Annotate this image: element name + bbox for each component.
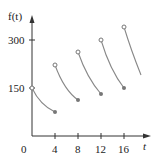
x-tick-12: 12 xyxy=(95,143,106,155)
y-tick-300: 300 xyxy=(8,34,25,46)
x-tick-4: 4 xyxy=(52,143,58,155)
x-axis-arrow-icon xyxy=(143,134,151,139)
y-tick-150: 150 xyxy=(8,82,25,94)
origin-label: 0 xyxy=(21,143,27,155)
filled-points xyxy=(53,86,126,114)
x-tick-16: 16 xyxy=(118,143,130,155)
curves xyxy=(32,27,141,112)
y-axis-label: f(t) xyxy=(8,10,22,23)
open-points xyxy=(30,25,126,90)
x-tick-8: 8 xyxy=(75,143,81,155)
x-axis-label: t xyxy=(143,140,147,152)
y-axis-arrow-icon xyxy=(30,15,35,23)
chart: f(t) 300 150 0 4 8 12 16 t xyxy=(0,0,160,161)
